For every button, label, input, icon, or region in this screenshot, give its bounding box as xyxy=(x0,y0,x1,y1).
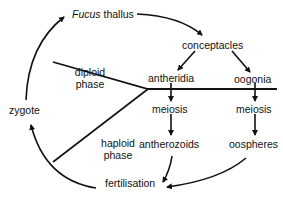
node-meiosis-right: meiosis xyxy=(236,103,272,115)
node-oospheres: oospheres xyxy=(229,138,278,150)
thallus-word: thallus xyxy=(101,8,134,20)
region-diploid-phase: diploid phase xyxy=(68,66,112,90)
node-meiosis-left: meiosis xyxy=(152,103,188,115)
node-antherozoids: antherozoids xyxy=(139,138,199,150)
node-oogonia: oogonia xyxy=(234,73,271,85)
node-conceptacles: conceptacles xyxy=(182,39,243,51)
region-haploid-phase: haploid phase xyxy=(96,137,140,161)
region-diploid-word: diploid xyxy=(68,66,112,78)
thallus-genus: Fucus xyxy=(72,8,101,20)
node-fucus-thallus: Fucus thallus xyxy=(72,8,134,20)
haploid-divider xyxy=(0,0,283,197)
node-fertilisation: fertilisation xyxy=(105,177,155,189)
node-antheridia: antheridia xyxy=(148,72,194,84)
region-diploid-phase-word: phase xyxy=(68,78,112,90)
region-haploid-word: haploid xyxy=(96,137,140,149)
fucus-life-cycle-diagram: Fucus thallus conceptacles antheridia oo… xyxy=(0,0,283,197)
node-zygote: zygote xyxy=(9,104,40,116)
region-haploid-phase-word: phase xyxy=(96,149,140,161)
